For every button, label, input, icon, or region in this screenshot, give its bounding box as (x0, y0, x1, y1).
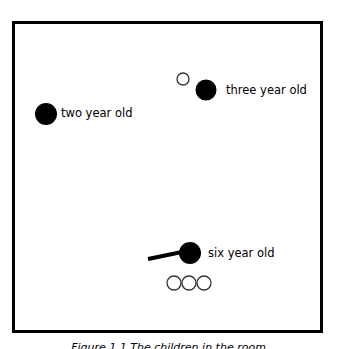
figure-caption: Figure 1.1 The children in the room (0, 341, 337, 349)
figure-scene (0, 0, 337, 349)
hollow-circle (177, 73, 189, 85)
hollow-circle (167, 276, 181, 290)
stick-line (148, 252, 182, 259)
label-three-year-old: three year old (226, 83, 307, 97)
child-dot-three-year-old (196, 80, 217, 101)
label-two-year-old: two year old (61, 106, 132, 120)
hollow-circle (197, 276, 211, 290)
child-dot-two-year-old (35, 103, 57, 125)
hollow-circle (182, 276, 196, 290)
label-six-year-old: six year old (208, 246, 275, 260)
caption-clip: Figure 1.1 The children in the room (0, 341, 337, 349)
child-dot-six-year-old (179, 242, 201, 264)
